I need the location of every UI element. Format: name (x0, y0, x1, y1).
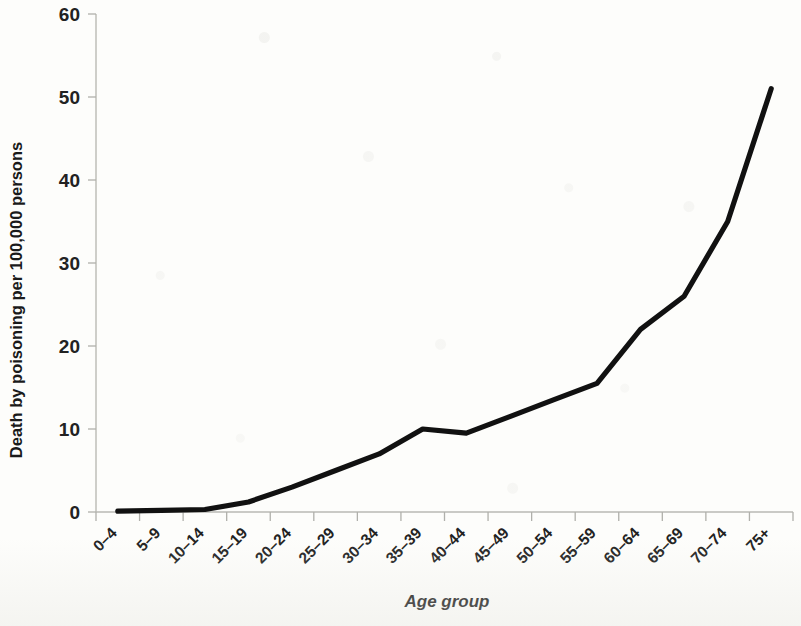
x-tick-label: 20–24 (252, 524, 295, 567)
x-axis-tick-labels: 0–45–910–1415–1920–2425–2930–3435–3940–4… (90, 524, 774, 567)
x-axis-title: Age group (404, 592, 490, 611)
x-tick-label: 70–74 (687, 524, 730, 567)
x-axis-tick-marks (96, 512, 793, 521)
x-tick-label: 10–14 (165, 524, 208, 567)
x-tick-label: 0–4 (90, 524, 121, 555)
y-tick-label: 30 (59, 253, 80, 274)
y-tick-label: 10 (59, 419, 80, 440)
y-tick-label: 20 (59, 336, 80, 357)
y-axis-tick-marks (88, 14, 96, 512)
y-tick-label: 50 (59, 87, 80, 108)
line-chart-plot: Death by poisoning per 100,000 persons 0… (0, 0, 801, 626)
chart-container: Death by poisoning per 100,000 persons 0… (0, 0, 801, 626)
x-tick-label: 50–54 (513, 524, 556, 567)
x-tick-label: 5–9 (133, 524, 164, 555)
data-series-line (118, 89, 771, 512)
x-tick-label: 45–49 (469, 524, 512, 567)
y-tick-label: 0 (69, 502, 80, 523)
x-tick-label: 55–59 (557, 524, 600, 567)
y-axis-tick-labels: 0102030405060 (59, 4, 80, 523)
y-tick-label: 40 (59, 170, 80, 191)
x-tick-label: 30–34 (339, 524, 382, 567)
x-tick-label: 35–39 (382, 524, 425, 567)
x-tick-label: 15–19 (208, 524, 251, 567)
y-tick-label: 60 (59, 4, 80, 25)
x-tick-label: 40–44 (426, 524, 469, 567)
y-axis-title: Death by poisoning per 100,000 persons (7, 142, 25, 458)
x-tick-label: 25–29 (295, 524, 338, 567)
x-tick-label: 65–69 (644, 524, 687, 567)
x-tick-label: 60–64 (600, 524, 643, 567)
x-tick-label: 75+ (743, 524, 774, 555)
